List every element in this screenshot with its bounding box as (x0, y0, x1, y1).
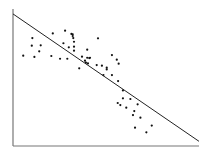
data-point (137, 103, 139, 105)
data-point (31, 37, 33, 39)
data-point (86, 49, 88, 51)
data-point (116, 59, 118, 61)
data-point (50, 55, 52, 57)
data-point (111, 74, 113, 76)
data-point (132, 114, 134, 116)
data-point (31, 45, 33, 47)
data-point (64, 30, 66, 32)
data-point (96, 64, 98, 66)
data-point (129, 98, 131, 100)
data-point (101, 65, 103, 67)
data-point (73, 46, 75, 48)
trend-line (13, 14, 199, 141)
data-point (72, 37, 74, 39)
data-point (81, 56, 83, 58)
data-point (62, 42, 64, 44)
data-point (97, 37, 99, 39)
data-point (22, 55, 24, 57)
data-point (72, 35, 74, 37)
data-point (73, 50, 75, 52)
data-point (125, 107, 127, 109)
data-point (139, 117, 141, 119)
data-point (38, 50, 40, 52)
data-point (134, 127, 136, 129)
data-point (117, 80, 119, 82)
scatter-chart (0, 0, 209, 154)
data-point (84, 60, 86, 62)
data-point (89, 57, 91, 59)
data-point (145, 131, 147, 133)
data-point (119, 104, 121, 106)
data-point (52, 32, 54, 34)
data-point (78, 67, 80, 69)
data-point (151, 124, 153, 126)
data-points (22, 30, 153, 134)
data-point (73, 41, 75, 43)
data-point (86, 57, 88, 59)
data-point (33, 56, 35, 58)
data-point (122, 97, 124, 99)
data-point (66, 58, 68, 60)
data-point (106, 68, 108, 70)
data-point (118, 63, 120, 65)
data-point (117, 102, 119, 104)
data-point (133, 110, 135, 112)
data-point (68, 46, 70, 48)
regression-line (13, 14, 199, 141)
data-point (59, 58, 61, 60)
data-point (111, 54, 113, 56)
data-point (40, 44, 42, 46)
